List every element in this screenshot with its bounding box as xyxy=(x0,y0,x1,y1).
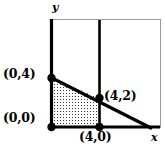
vertex-dot-4-2 xyxy=(95,94,103,102)
axis-label-x: x xyxy=(151,132,157,143)
vertex-label-4-0: (4,0) xyxy=(79,131,112,144)
geometry-figure: (0,4) (0,0) (4,2) (4,0) y x xyxy=(0,0,165,151)
vertex-dot-0-0 xyxy=(47,123,55,131)
vertex-label-0-0: (0,0) xyxy=(3,112,36,125)
vertex-dot-0-4 xyxy=(47,74,55,82)
feasible-region-shading xyxy=(51,78,99,127)
axis-label-y: y xyxy=(52,2,58,13)
vertex-label-4-2: (4,2) xyxy=(104,90,137,103)
vertex-label-0-4: (0,4) xyxy=(3,68,36,81)
